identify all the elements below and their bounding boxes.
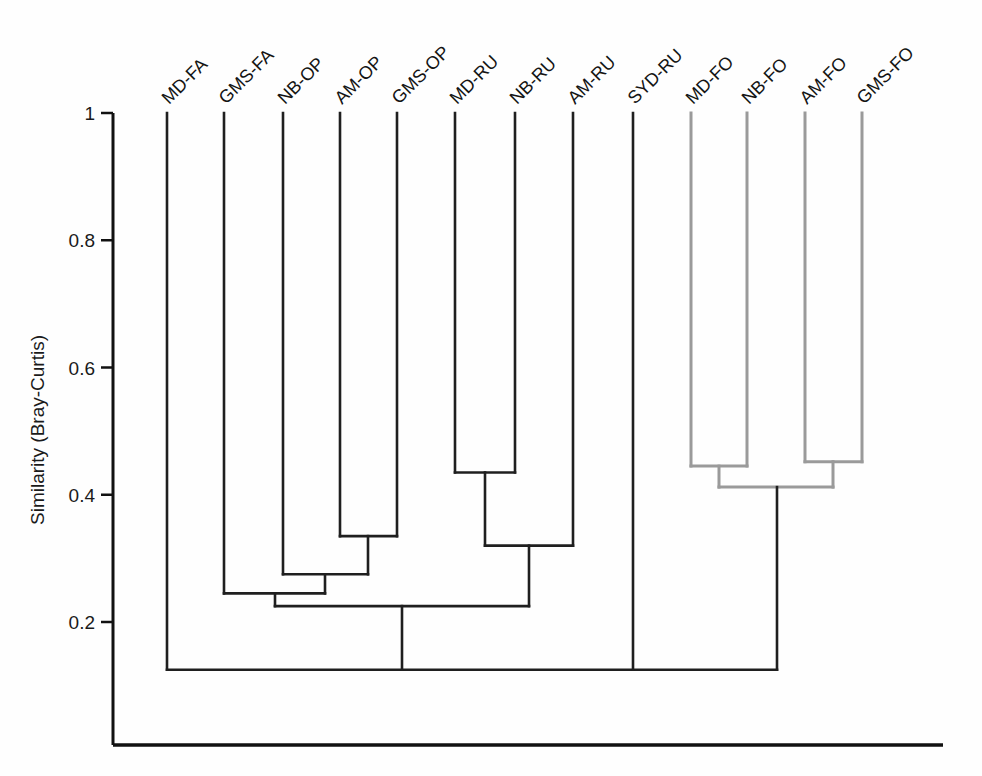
leaf-label-md-fo: MD-FO <box>682 52 738 108</box>
leaf-label-nb-ru: NB-RU <box>506 53 560 107</box>
y-tick-label: 0.4 <box>69 485 96 506</box>
y-tick-label: 1 <box>84 103 95 124</box>
y-tick-group: 10.80.60.40.2 <box>69 103 113 633</box>
leaf-label-am-op: AM-OP <box>331 52 387 108</box>
dendrogram-links <box>167 462 862 670</box>
leaf-label-am-fo: AM-FO <box>796 53 851 108</box>
leaf-label-syd-ru: SYD-RU <box>624 45 687 108</box>
leaf-label-nb-fo: NB-FO <box>738 54 792 108</box>
y-tick-label: 0.6 <box>69 358 95 379</box>
y-axis-title: Similarity (Bray-Curtis) <box>27 335 48 525</box>
leaf-label-gms-fo: GMS-FO <box>853 43 918 108</box>
dendrogram-figure: 10.80.60.40.2 Similarity (Bray-Curtis) M… <box>0 0 982 776</box>
leaf-label-gms-op: GMS-OP <box>388 42 454 108</box>
leaf-label-am-ru: AM-RU <box>564 52 620 108</box>
dendrogram-leaves <box>167 113 862 670</box>
leaf-label-gms-fa: GMS-FA <box>215 45 278 108</box>
leaf-label-nb-op: NB-OP <box>274 53 328 107</box>
y-tick-label: 0.8 <box>69 230 95 251</box>
leaf-label-md-fa: MD-FA <box>158 54 212 108</box>
dendrogram-plot: 10.80.60.40.2 Similarity (Bray-Curtis) M… <box>0 0 982 776</box>
y-tick-label: 0.2 <box>69 612 95 633</box>
leaf-label-md-ru: MD-RU <box>446 51 503 108</box>
leaf-label-group: MD-FAGMS-FANB-OPAM-OPGMS-OPMD-RUNB-RUAM-… <box>158 42 918 108</box>
